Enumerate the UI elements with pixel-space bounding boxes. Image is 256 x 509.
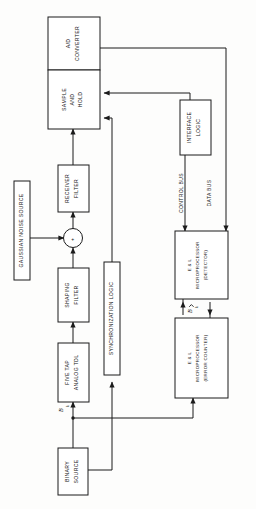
block-binary-source[interactable]: BINARY SOURCE <box>58 448 88 495</box>
edge-node-to-error-counter <box>73 398 193 418</box>
block-label-ad-converter-line-0: A/D <box>65 39 71 49</box>
signal-b-hat-k-subscript: k <box>194 306 199 308</box>
edge-interface-to-sample-hold <box>104 93 190 100</box>
block-label-micro-detector-line-2: (DETECTOR) <box>203 250 208 281</box>
edge-sync-to-sample-hold <box>104 118 112 262</box>
block-label-gaussian-noise-source: GAUSSIAN NOISE SOURCE <box>18 193 24 267</box>
block-label-binary-source-line-0: BINARY <box>64 461 70 482</box>
block-sample-and-hold[interactable]: SAMPLE AND HOLD <box>48 70 100 129</box>
block-label-shaping-filter-line-1: FILTER <box>73 285 79 304</box>
block-label-receiver-filter-line-1: FILTER <box>73 179 79 198</box>
block-label-synchronization-logic: SYNCHRONIZATION LOGIC <box>108 282 114 355</box>
block-ad-converter[interactable]: A/D CONVERTER <box>48 17 100 70</box>
signal-label-b-hat-k: B k <box>187 305 199 313</box>
signal-b-k-base: B <box>58 408 64 412</box>
block-label-five-tap-tdl-line-1: ANALOG TDL <box>73 355 79 391</box>
block-microprocessor-error-counter[interactable]: E & L MICROPROCESSOR (ERROR COUNTER) <box>175 318 228 398</box>
block-label-sample-and-hold-line-0: SAMPLE <box>61 88 67 111</box>
block-label-five-tap-tdl-line-0: FIVE TAP <box>64 360 70 385</box>
block-label-micro-error-counter-line-2: (ERROR COUNTER) <box>203 334 208 381</box>
block-interface-logic[interactable]: INTERFACE LOGIC <box>180 100 211 155</box>
block-label-binary-source-line-1: SOURCE <box>73 459 79 483</box>
bus-label-data-bus: DATA BUS <box>206 179 212 206</box>
block-gaussian-noise-source[interactable]: GAUSSIAN NOISE SOURCE <box>14 181 30 280</box>
block-label-shaping-filter-line-0: SHAPING <box>64 282 70 307</box>
summing-junction-symbol: + <box>71 236 74 242</box>
block-diagram-canvas: A/D CONVERTER SAMPLE AND HOLD RECEIVER F… <box>0 0 256 509</box>
block-receiver-filter[interactable]: RECEIVER FILTER <box>58 165 89 212</box>
edge-binary-source-to-sync <box>88 382 112 470</box>
block-label-sample-and-hold-line-2: HOLD <box>77 92 83 108</box>
summing-junction[interactable]: + <box>64 229 83 248</box>
junction-dot-binary-source <box>71 416 74 419</box>
block-label-interface-logic-line-1: LOGIC <box>195 119 201 137</box>
block-label-interface-logic-line-0: INTERFACE <box>186 111 192 143</box>
block-shaping-filter[interactable]: SHAPING FILTER <box>58 268 89 322</box>
signal-b-k-subscript: k <box>65 405 70 407</box>
block-label-micro-detector-line-1: MICROPROCESSOR <box>195 241 200 289</box>
block-label-micro-detector-line-0: E & L <box>187 259 192 272</box>
block-label-ad-converter-line-1: CONVERTER <box>74 26 80 61</box>
block-five-tap-analog-tdl[interactable]: FIVE TAP ANALOG TDL <box>58 343 89 402</box>
block-label-micro-error-counter-line-1: MICROPROCESSOR <box>195 334 200 382</box>
block-label-receiver-filter-line-0: RECEIVER <box>64 174 70 203</box>
block-synchronization-logic[interactable]: SYNCHRONIZATION LOGIC <box>104 262 120 375</box>
bus-labels: CONTROL BUS DATA BUS <box>178 173 212 213</box>
signal-b-hat-k-base: B <box>187 309 193 313</box>
signal-label-b-k: B k <box>58 405 70 412</box>
block-label-micro-error-counter-line-0: E & L <box>187 352 192 365</box>
block-label-sample-and-hold-line-1: AND <box>69 94 75 106</box>
block-microprocessor-detector[interactable]: E & L MICROPROCESSOR (DETECTOR) <box>175 231 228 299</box>
bus-label-control-bus: CONTROL BUS <box>178 173 184 213</box>
